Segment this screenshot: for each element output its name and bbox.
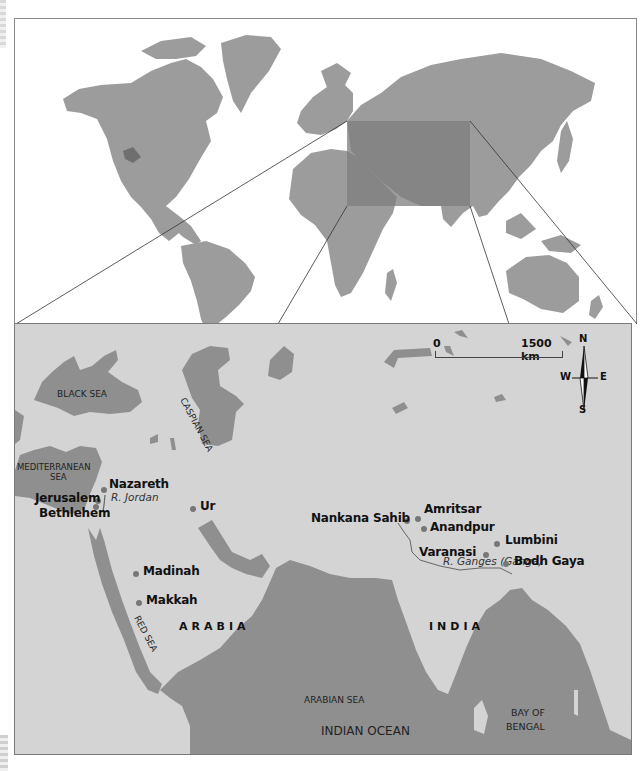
indian-ocean-label: INDIAN OCEAN [321,726,410,737]
region-map-panel: 0 1500 km N W E S BLACK SEA CASPIAN SEA … [14,323,632,755]
city-label-nazareth: Nazareth [109,477,169,491]
river-jordan-label: R. Jordan [111,491,159,503]
city-label-amritsar: Amritsar [424,502,481,516]
page-edge-decoration [0,735,8,771]
city-label-jerusalem: Jerusalem [35,491,100,505]
city-label-lumbini: Lumbini [505,533,558,547]
city-dot-madinah [133,571,139,577]
black-sea-label: BLACK SEA [57,389,107,400]
persian-gulf-shape [198,520,270,578]
world-map-panel [14,18,637,324]
bay-of-bengal-label-line1: BAY OF [511,707,545,718]
city-dot-lumbini [494,541,500,547]
city-label-varanasi: Varanasi [419,545,476,559]
world-landmasses [63,35,603,325]
city-dot-makkah [136,600,142,606]
city-label-makkah: Makkah [146,593,197,607]
compass-needle-icon [560,326,610,416]
compass-rose: N W E S [560,326,610,416]
city-dot-amritsar [415,516,421,522]
scale-bar: 0 1500 km [433,337,573,359]
city-label-bodh-gaya: Bodh Gaya [514,554,584,568]
city-label-bethlehem: Bethlehem [39,506,110,520]
mediterranean-sea-label-line2: SEA [50,472,67,483]
aral-sea-shape [268,346,294,380]
red-sea-shape [88,528,162,694]
city-label-ur: Ur [200,499,215,513]
bay-of-bengal-label-line2: BENGAL [506,721,545,732]
city-dot-varanasi [483,552,489,558]
city-dot-ur [190,506,196,512]
city-label-anandpur: Anandpur [430,520,495,534]
city-dot-nazareth [101,487,107,493]
city-dot-anandpur [421,526,427,532]
india-label: INDIA [429,620,484,633]
arabian-sea-label: ARABIAN SEA [304,695,364,706]
city-label-madinah: Madinah [143,564,200,578]
black-sea-shape [34,350,142,416]
scale-start-label: 0 [433,337,441,350]
highlight-region-box [347,121,470,206]
city-dot-bodh-gaya [503,561,509,567]
city-label-nankana-sahib: Nankana Sahib [311,511,410,525]
scale-bar-line [435,351,563,358]
world-map-graphic [15,19,638,325]
page-edge-decoration [0,0,6,48]
caspian-sea-shape [182,346,244,446]
arabia-label: ARABIA [179,620,250,633]
